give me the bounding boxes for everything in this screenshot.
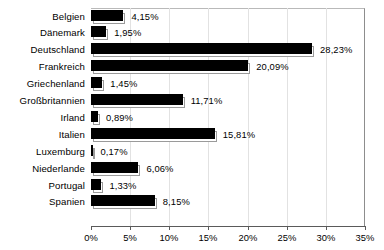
x-axis-tick [287,226,288,230]
bar-fill [91,26,106,37]
bar-row: Griechenland1,45% [0,76,384,92]
x-axis-tick [208,226,209,230]
bar-value-label: 0,17% [101,144,128,159]
bar [91,128,219,142]
x-axis-tick-label: 20% [228,231,268,244]
category-label: Niederlande [0,161,85,177]
bar-value-label: 8,15% [163,194,190,209]
bar-row: Großbritannien11,71% [0,93,384,109]
bar-row: Niederlande6,06% [0,161,384,177]
bar [91,10,127,24]
bar-value-label: 1,95% [114,25,141,40]
x-axis-tick-label: 0% [71,231,111,244]
category-label: Spanien [0,194,85,210]
category-label: Dänemark [0,25,85,41]
category-label: Frankreich [0,59,85,75]
bar-fill [91,195,155,206]
x-axis-tick [326,226,327,230]
bar-row: Irland0,89% [0,110,384,126]
bar-fill [91,111,98,122]
bar [91,111,102,125]
bar-fill [91,162,138,173]
bar-value-label: 1,45% [110,76,137,91]
bar-row: Italien15,81% [0,127,384,143]
bar-fill [91,60,248,71]
bar [91,145,97,159]
x-axis-tick-label: 10% [149,231,189,244]
bar [91,94,187,108]
x-axis-tick [130,226,131,230]
category-label: Luxemburg [0,144,85,160]
bar-shadow [93,148,95,159]
bar-value-label: 28,23% [320,42,352,57]
bar-row: Luxemburg0,17% [0,144,384,160]
bar-value-label: 6,06% [146,161,173,176]
bar-row: Deutschland28,23% [0,42,384,58]
bar [91,60,252,74]
bar [91,43,316,57]
category-label: Irland [0,110,85,126]
x-axis-tick-label: 25% [267,231,307,244]
bar-fill [91,43,312,54]
bar-fill [91,145,93,156]
bar [91,77,106,91]
bar [91,195,159,209]
bar-fill [91,179,101,190]
category-label: Großbritannien [0,93,85,109]
bar-value-label: 15,81% [223,127,255,142]
bar [91,26,110,40]
bar-value-label: 4,15% [131,9,158,24]
bar-fill [91,10,123,21]
bar-row: Frankreich20,09% [0,59,384,75]
category-label: Deutschland [0,42,85,58]
x-axis-tick [365,226,366,230]
x-axis-tick [248,226,249,230]
bar [91,162,142,176]
bar-row: Belgien4,15% [0,9,384,25]
bar-fill [91,94,183,105]
x-axis-tick [91,226,92,230]
bar-value-label: 1,33% [109,178,136,193]
x-axis-tick [169,226,170,230]
bar-chart: Belgien4,15%Dänemark1,95%Deutschland28,2… [0,0,384,250]
bar-fill [91,77,102,88]
bar-row: Spanien8,15% [0,194,384,210]
bar-row: Portugal1,33% [0,178,384,194]
x-axis-tick-label: 35% [345,231,384,244]
bar-fill [91,128,215,139]
category-label: Portugal [0,178,85,194]
x-axis-line [91,226,366,227]
bar-row: Dänemark1,95% [0,25,384,41]
category-label: Belgien [0,9,85,25]
category-label: Griechenland [0,76,85,92]
x-axis-tick-label: 5% [110,231,150,244]
bar-value-label: 0,89% [106,110,133,125]
bar [91,179,105,193]
bar-value-label: 20,09% [256,59,288,74]
category-label: Italien [0,127,85,143]
bar-value-label: 11,71% [191,93,223,108]
x-axis-tick-label: 30% [306,231,346,244]
x-axis-tick-label: 15% [188,231,228,244]
